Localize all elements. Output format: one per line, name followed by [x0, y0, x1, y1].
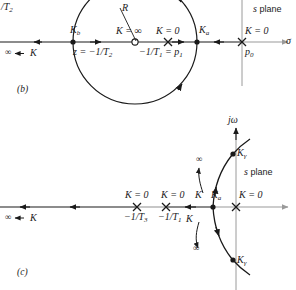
panel-b-k-to-infinity-label: ∞	[5, 48, 11, 57]
panel-c-label-k-gamma-upper: Kγ	[237, 148, 246, 160]
figure-vector-canvas	[0, 0, 296, 290]
root-locus-figure: /T2 R s plane Kb K = ∞ K = 0 Ka K = 0 z …	[0, 0, 296, 290]
panel-b-breakaway-point-kb	[70, 39, 75, 44]
panel-b-label-k-zero-p0: K = 0	[245, 26, 268, 36]
panel-b-circle-arrow-top	[178, 0, 181, 2]
panel-b-radius-label: R	[122, 3, 128, 13]
panel-c-crossing-point-lower	[230, 257, 235, 262]
panel-c-label-k-zero-t3: K = 0	[125, 190, 148, 200]
panel-c-label-k-upper: K	[195, 190, 202, 200]
panel-b-label-k-zero-p1: K = 0	[156, 26, 179, 36]
panel-c-branch-arrow-lower	[216, 227, 219, 236]
panel-b-zero-value-label: z = −1/T2	[73, 47, 112, 59]
panel-c-label-ka: Ka	[211, 190, 221, 202]
panel-b-pole-value-label: −1/T1 = p1	[139, 47, 183, 59]
panel-c-plane-label: s plane	[244, 167, 272, 177]
panel-c-label-k-gamma-lower: Kγ	[237, 255, 246, 267]
panel-c-k-to-infinity-label: ∞	[5, 213, 11, 222]
panel-b-clipped-pole-label: /T2	[1, 2, 13, 14]
panel-b-label-kb: Kb	[70, 25, 80, 37]
panel-b-label-p0: p0	[245, 47, 254, 59]
panel-b-sigma-axis-label: σ	[286, 36, 291, 46]
panel-c-label-infinity-lower: ∞	[193, 244, 199, 253]
panel-c-label-k-zero-t1: K = 0	[161, 190, 184, 200]
panel-c-crossing-point-upper	[230, 151, 235, 156]
panel-c-label-infinity-upper: ∞	[196, 155, 202, 164]
panel-b-label-k-infinity: K = ∞	[116, 26, 142, 36]
panel-c-k-tail-label: K	[30, 213, 37, 223]
panel-c-pole-t3-label: −1/T3	[124, 212, 148, 224]
panel-b-tag: (b)	[17, 85, 28, 95]
panel-c-tag: (c)	[17, 268, 28, 278]
panel-c-pole-t1-label: −1/T1	[158, 212, 182, 224]
panel-b-breakin-point-ka	[194, 39, 199, 44]
panel-b-label-ka: Ka	[199, 25, 209, 37]
panel-b-plane-label: s plane	[253, 4, 281, 14]
panel-c-label-k-zero-origin: K = 0	[239, 190, 262, 200]
panel-c-label-k-lower: K	[186, 214, 193, 224]
panel-b-k-tail-label: K	[30, 48, 37, 58]
panel-c-jomega-axis-label: jω	[228, 115, 238, 125]
